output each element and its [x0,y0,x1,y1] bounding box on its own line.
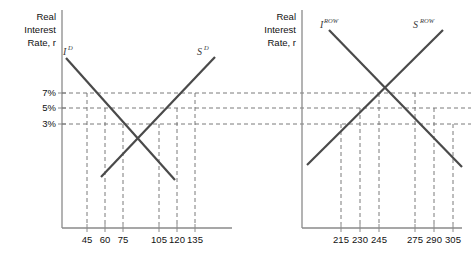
y-axis-title-row-line-2: Interest [264,24,296,35]
curve-label-supply-row-sup: ROW [419,17,435,24]
x-tick-label-75: 75 [118,234,129,245]
panel-domestic: Real Interest Rate, r 7% 5% 3% [24,10,471,245]
curve-label-demand-domestic-base: I [62,46,67,57]
x-tick-label-45: 45 [82,234,93,245]
curve-label-supply-domestic-sup: D [203,44,209,51]
curve-label-supply-domestic: S D [197,44,209,57]
curve-label-demand-domestic: I D [62,44,73,57]
y-tick-label-7: 7% [42,87,56,98]
x-tick-label-230: 230 [352,234,368,245]
x-tick-label-215: 215 [333,234,349,245]
curve-label-supply-domestic-base: S [197,46,202,57]
x-tick-label-60: 60 [100,234,111,245]
panel-rest-of-world: Real Interest Rate, r 215 230 245 275 29… [264,10,462,245]
curve-label-supply-row: S ROW [413,17,435,30]
x-tick-label-135: 135 [187,234,203,245]
x-tick-label-305: 305 [445,234,461,245]
curve-label-demand-row: I ROW [319,17,339,30]
y-axis-title-line-1: Real [36,11,56,22]
x-tick-label-120: 120 [169,234,185,245]
loanable-funds-figure: Real Interest Rate, r 7% 5% 3% [0,0,471,259]
curve-label-demand-row-sup: ROW [323,17,339,24]
y-axis-title-line-2: Interest [24,24,56,35]
y-axis-title-row-line-3: Rate, r [267,37,296,48]
figure-svg: Real Interest Rate, r 7% 5% 3% [0,0,471,259]
curve-demand-row [329,30,462,167]
curve-demand-domestic [66,58,175,180]
y-tick-label-5: 5% [42,102,56,113]
x-tick-label-290: 290 [426,234,442,245]
x-tick-label-275: 275 [407,234,423,245]
y-axis-title-row-line-1: Real [276,11,296,22]
curve-label-demand-domestic-sup: D [67,44,73,51]
x-tick-label-105: 105 [151,234,167,245]
curve-label-supply-row-base: S [413,19,418,30]
y-axis-title-line-3: Rate, r [27,37,56,48]
curve-supply-row [307,30,443,165]
x-tick-label-245: 245 [371,234,387,245]
y-tick-label-3: 3% [42,118,56,129]
